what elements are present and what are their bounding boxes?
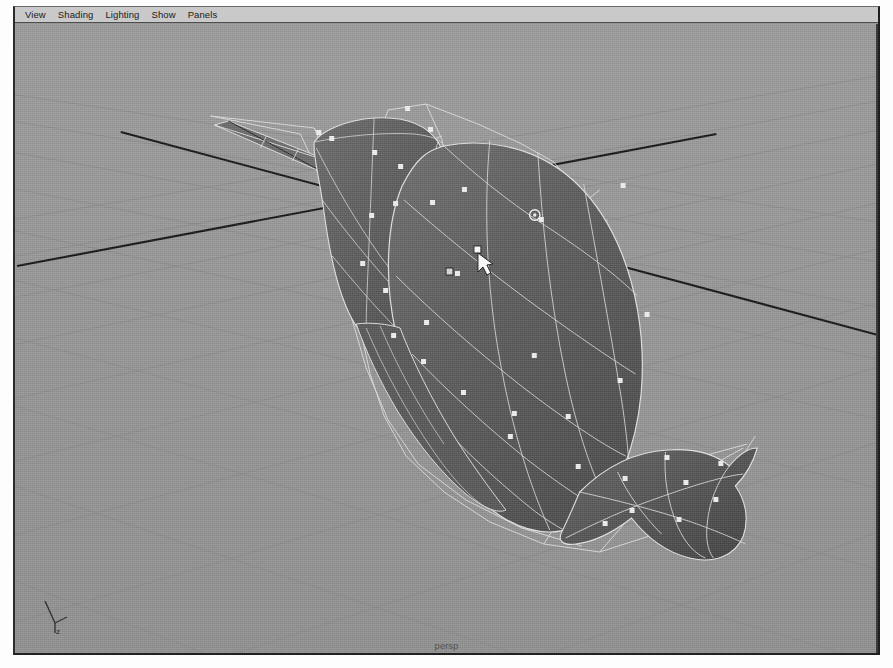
control-vertex[interactable]: [383, 288, 388, 293]
view-panel-window: View Shading Lighting Show Panels: [13, 6, 880, 655]
control-vertex[interactable]: [393, 201, 398, 206]
control-vertex[interactable]: [603, 521, 608, 526]
control-vertex[interactable]: [461, 390, 466, 395]
control-vertex[interactable]: [430, 200, 435, 205]
maya-viewport-screenshot: View Shading Lighting Show Panels: [0, 0, 893, 668]
control-vertex[interactable]: [532, 353, 537, 358]
control-vertex[interactable]: [391, 333, 396, 338]
control-vertex[interactable]: [683, 480, 688, 485]
control-vertex[interactable]: [576, 464, 581, 469]
control-vertex[interactable]: [369, 213, 374, 218]
control-vertex[interactable]: [539, 217, 544, 222]
control-vertex[interactable]: [316, 130, 321, 135]
axis-gizmo-icon: [39, 597, 81, 641]
menu-item-lighting[interactable]: Lighting: [99, 7, 145, 22]
menu-item-show[interactable]: Show: [145, 7, 181, 22]
control-vertex[interactable]: [508, 434, 513, 439]
control-vertex[interactable]: [664, 455, 669, 460]
control-vertex[interactable]: [455, 271, 460, 276]
menu-item-shading[interactable]: Shading: [52, 7, 100, 22]
control-vertex[interactable]: [512, 411, 517, 416]
axis-label-z: z: [56, 627, 60, 636]
control-vertex[interactable]: [676, 517, 681, 522]
control-vertex[interactable]: [718, 461, 723, 466]
menu-item-view[interactable]: View: [19, 7, 52, 22]
axis-gizmo: z: [39, 597, 81, 641]
control-vertex[interactable]: [428, 127, 433, 132]
control-vertex[interactable]: [421, 359, 426, 364]
viewport-canvas[interactable]: [15, 24, 878, 655]
control-vertex[interactable]: [713, 497, 718, 502]
viewport-menubar: View Shading Lighting Show Panels: [15, 7, 878, 23]
control-vertex[interactable]: [645, 312, 650, 317]
control-vertex[interactable]: [329, 136, 334, 141]
control-vertex[interactable]: [360, 261, 365, 266]
control-vertex[interactable]: [372, 150, 377, 155]
persp-viewport[interactable]: persp z: [15, 24, 878, 655]
control-vertex[interactable]: [618, 378, 623, 383]
control-vertex[interactable]: [424, 320, 429, 325]
control-vertex[interactable]: [630, 508, 635, 513]
control-vertex[interactable]: [621, 183, 626, 188]
control-vertex[interactable]: [405, 106, 410, 111]
control-vertex[interactable]: [566, 414, 571, 419]
control-vertex[interactable]: [462, 187, 467, 192]
control-vertex[interactable]: [398, 164, 403, 169]
viewport-right-edge: [876, 24, 878, 655]
control-vertex[interactable]: [623, 476, 628, 481]
menu-item-panels[interactable]: Panels: [182, 7, 224, 22]
